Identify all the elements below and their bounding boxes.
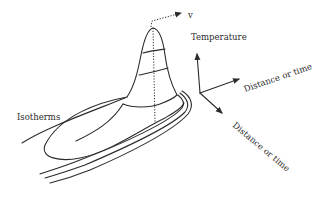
velocity-arrow [151,13,181,27]
temperature-peak-diagram: v Isotherms Temperature Distance or time… [0,0,321,201]
temperature-axis-arrow [197,54,200,93]
axes [197,54,239,113]
isotherms [22,91,191,183]
distance-axis-label-2: Distance or time [231,120,292,174]
isotherms-label: Isotherms [17,112,60,122]
temperature-axis-label: Temperature [191,32,247,42]
distance-axis-arrow-2 [200,93,222,113]
distance-axis-label-1: Distance or time [242,61,313,94]
distance-axis-arrow-1 [200,79,239,93]
velocity-label: v [187,10,193,20]
temperature-peak [123,28,177,107]
peak-contour-1 [143,49,165,53]
peak-center-line [153,28,155,122]
